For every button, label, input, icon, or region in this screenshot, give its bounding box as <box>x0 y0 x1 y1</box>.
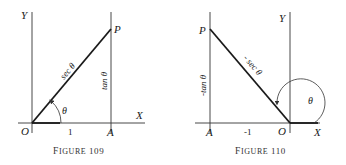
x-axis-label: X <box>135 109 144 121</box>
y-axis-label: Y <box>21 9 29 21</box>
figure-109: Y X O A P 1 θ sec θ tan θ FIGURE 109 <box>18 9 145 156</box>
figure-caption: FIGURE 110 <box>235 146 286 156</box>
origin-label: O <box>21 125 29 137</box>
point-p-label: P <box>198 24 206 36</box>
hypotenuse-label: - sec θ <box>241 53 264 78</box>
figure-caption: FIGURE 109 <box>53 146 104 156</box>
adjacent-label: -1 <box>244 127 252 137</box>
adjacent-label: 1 <box>68 127 73 137</box>
angle-arc <box>51 101 61 123</box>
figure-110: Y X O A P -1 θ - sec θ -tan θ FIGURE 110 <box>195 12 325 156</box>
opposite-label: tan θ <box>99 71 109 90</box>
x-axis-label: X <box>313 126 322 138</box>
origin-label: O <box>278 125 286 137</box>
opposite-label: -tan θ <box>198 74 208 96</box>
point-p-label: P <box>113 23 121 35</box>
diagram-canvas: Y X O A P 1 θ sec θ tan θ FIGURE 109 Y X… <box>0 0 346 165</box>
secant-line <box>210 29 290 123</box>
point-a-label: A <box>205 126 213 138</box>
point-a-label: A <box>106 126 114 138</box>
y-axis-label: Y <box>279 12 287 24</box>
angle-label: θ <box>62 105 67 116</box>
angle-label: θ <box>308 95 313 106</box>
